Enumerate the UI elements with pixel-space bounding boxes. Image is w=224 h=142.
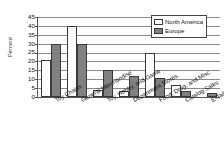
y-axis-title: Percent bbox=[7, 21, 13, 73]
x-axis-tick-labels: Toy ChainsGeneral MerchandiseToy, Hobby,… bbox=[37, 98, 219, 142]
y-axis-tick-labels: 051015202530354045 bbox=[20, 14, 35, 98]
y-tick-label: 10 bbox=[20, 76, 35, 82]
x-tick-label: Toy Chains bbox=[54, 98, 57, 104]
bar-group bbox=[38, 17, 64, 97]
legend-label: North America bbox=[165, 19, 203, 25]
y-tick-label: 20 bbox=[20, 58, 35, 64]
x-tick-label: Food, Drug, and Misc. bbox=[158, 98, 161, 104]
legend-entry: Europe bbox=[154, 27, 203, 35]
y-tick-label: 15 bbox=[20, 67, 35, 73]
x-tick-label: Toy, Hobby, and Game bbox=[106, 98, 109, 104]
north-america-swatch bbox=[154, 19, 163, 25]
y-tick-label: 5 bbox=[20, 85, 35, 91]
y-tick-label: 25 bbox=[20, 49, 35, 55]
chart-legend: North AmericaEurope bbox=[151, 15, 207, 38]
bar bbox=[41, 60, 51, 97]
x-tick-label: Catalog Sales bbox=[184, 98, 187, 104]
x-tick-label: General Merchandise bbox=[80, 98, 83, 104]
x-tick-label: E-Tailers bbox=[210, 98, 213, 104]
bar-chart: Percent 051015202530354045 North America… bbox=[0, 0, 224, 142]
europe-swatch bbox=[154, 28, 163, 34]
y-tick-label: 45 bbox=[20, 14, 35, 20]
legend-entry: North America bbox=[154, 18, 203, 26]
y-tick-label: 35 bbox=[20, 32, 35, 38]
y-tick-label: 0 bbox=[20, 94, 35, 100]
y-tick-label: 40 bbox=[20, 23, 35, 29]
bar bbox=[51, 44, 61, 97]
x-tick-label: Department Stores bbox=[132, 98, 135, 104]
legend-label: Europe bbox=[165, 28, 184, 34]
y-tick-label: 30 bbox=[20, 41, 35, 47]
